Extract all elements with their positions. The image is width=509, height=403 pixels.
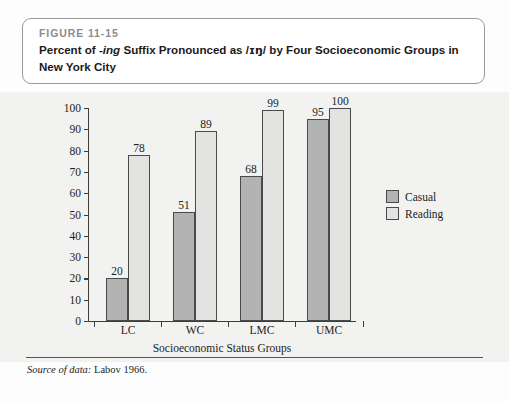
bar-casual-lc: 20	[106, 278, 128, 321]
bar-casual-umc: 95	[307, 119, 329, 321]
figure-caption-box: FIGURE 11-15 Percent of -ing Suffix Pron…	[22, 18, 485, 84]
y-tick-mark	[84, 257, 89, 258]
x-group-label-wc: WC	[186, 324, 205, 336]
y-tick-mark	[84, 108, 89, 109]
y-tick-mark	[84, 278, 89, 279]
source-note: Source of data: Labov 1966.	[27, 364, 147, 375]
chart-legend: CasualReading	[386, 188, 443, 222]
y-tick-mark	[84, 193, 89, 194]
plot-area: 0102030405060708090100 2078LC5189WC6899L…	[88, 108, 388, 321]
title-segment-1: Percent of	[39, 43, 99, 56]
y-tick-label: 100	[64, 102, 81, 114]
legend-item-casual: Casual	[386, 188, 443, 205]
source-divider	[26, 357, 483, 358]
bar-value-label: 100	[331, 95, 348, 107]
bar-value-label: 68	[245, 163, 257, 175]
y-tick-label: 0	[75, 315, 81, 327]
bar-group: 5189WC	[173, 108, 217, 321]
y-tick-label: 80	[70, 145, 82, 157]
x-group-label-lmc: LMC	[250, 324, 275, 336]
y-tick-label: 40	[70, 230, 82, 242]
y-tick-label: 70	[70, 166, 82, 178]
bar-value-label: 78	[133, 142, 145, 154]
bar-casual-wc: 51	[173, 212, 195, 321]
x-tick-mark	[94, 321, 95, 327]
y-tick-mark	[84, 129, 89, 130]
y-tick-mark	[84, 172, 89, 173]
legend-swatch-reading	[386, 207, 399, 220]
x-axis-line	[88, 321, 356, 322]
bar-value-label: 20	[111, 265, 123, 277]
y-tick-label: 60	[70, 187, 82, 199]
bar-group: 95100UMC	[307, 108, 351, 321]
y-tick-label: 90	[70, 123, 82, 135]
bar-group: 2078LC	[106, 108, 150, 321]
bar-reading-wc: 89	[195, 131, 217, 321]
x-group-label-lc: LC	[121, 324, 136, 336]
bar-value-label: 51	[178, 199, 190, 211]
y-tick-mark	[84, 236, 89, 237]
y-tick-mark	[84, 321, 89, 322]
bar-casual-lmc: 68	[240, 176, 262, 321]
x-tick-mark	[228, 321, 229, 327]
chart-panel: 0102030405060708090100 2078LC5189WC6899L…	[0, 92, 509, 362]
y-tick-mark	[84, 215, 89, 216]
figure-page: FIGURE 11-15 Percent of -ing Suffix Pron…	[0, 0, 509, 403]
y-tick-label: 10	[70, 294, 82, 306]
legend-label: Reading	[405, 208, 443, 220]
bar-reading-lc: 78	[128, 155, 150, 321]
source-label: Source of data:	[27, 364, 91, 375]
title-ing-italic: -ing	[99, 43, 120, 56]
figure-number: FIGURE 11-15	[39, 26, 470, 40]
x-tick-mark	[161, 321, 162, 327]
y-tick-mark	[84, 151, 89, 152]
bar-value-label: 99	[267, 97, 279, 109]
legend-label: Casual	[405, 191, 436, 203]
x-group-label-umc: UMC	[316, 324, 342, 336]
x-axis-title: Socioeconomic Status Groups	[153, 342, 292, 354]
legend-swatch-casual	[386, 190, 399, 203]
bar-reading-umc: 100	[329, 108, 351, 321]
source-value: Labov 1966.	[91, 364, 147, 375]
bar-group: 6899LMC	[240, 108, 284, 321]
bar-value-label: 95	[312, 106, 324, 118]
figure-title: Percent of -ing Suffix Pronounced as /ɪŋ…	[39, 42, 470, 74]
bar-value-label: 89	[200, 118, 212, 130]
title-ipa-symbol: ɪŋ	[249, 44, 263, 57]
bar-reading-lmc: 99	[262, 110, 284, 321]
x-tick-mark	[295, 321, 296, 327]
title-segment-2: Suffix Pronounced as /	[120, 43, 249, 56]
x-tick-mark	[363, 321, 364, 327]
y-tick-mark	[84, 300, 89, 301]
y-tick-label: 30	[70, 251, 82, 263]
y-tick-label: 50	[70, 209, 82, 221]
y-tick-label: 20	[70, 272, 82, 284]
legend-item-reading: Reading	[386, 205, 443, 222]
